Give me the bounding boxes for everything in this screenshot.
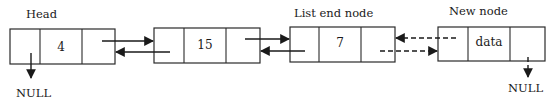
- node-list-end: 7: [290, 27, 395, 62]
- node-new: data: [438, 27, 545, 61]
- list-end-label: List end node: [294, 6, 373, 20]
- null-label-left: NULL: [16, 86, 51, 100]
- node-value: 4: [57, 40, 65, 54]
- linked-list-diagram: Head List end node New node 4 15 7 data …: [0, 0, 555, 103]
- node-head: 4: [10, 29, 115, 64]
- node-value: 7: [336, 36, 344, 50]
- new-node-label: New node: [449, 4, 508, 18]
- null-label-right: NULL: [508, 81, 543, 95]
- node-value: data: [476, 35, 503, 49]
- node-value: 15: [197, 38, 212, 52]
- node-middle: 15: [154, 28, 260, 63]
- head-label: Head: [26, 7, 58, 21]
